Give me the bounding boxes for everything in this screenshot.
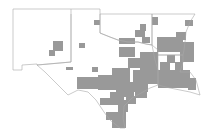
state-oklahoma — [71, 9, 152, 45]
state-new-mexico — [13, 9, 71, 70]
state-outlines — [13, 9, 200, 128]
county-distribution-map: South Central United States — [0, 0, 213, 136]
